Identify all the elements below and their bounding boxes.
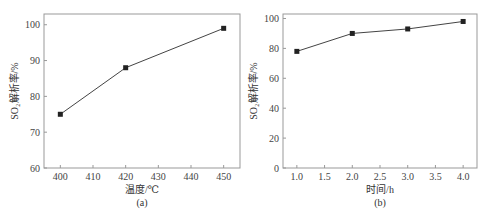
y-tick-label: 40 (269, 103, 279, 114)
plot-frame (283, 14, 477, 168)
data-point-marker (58, 112, 63, 117)
x-tick-label: 420 (118, 171, 133, 182)
plot-frame (44, 14, 240, 168)
y-axis-label: SO₂解析率/% (247, 62, 259, 119)
panel-label: (a) (136, 197, 147, 209)
series-line (60, 28, 223, 114)
y-axis-label: SO₂解析率/% (8, 62, 20, 119)
data-point-marker (294, 49, 299, 54)
y-tick-label: 100 (264, 13, 279, 24)
x-tick-label: 430 (151, 171, 166, 182)
panel-label: (b) (374, 197, 386, 209)
x-tick-label: 2.5 (374, 171, 387, 182)
x-axis-label: 温度/℃ (125, 183, 159, 195)
data-point-marker (405, 26, 410, 31)
x-axis-label: 时间/h (366, 183, 394, 195)
y-tick-label: 80 (269, 43, 279, 54)
chart-a: 60708090100400410420430440450温度/℃(a)SO₂解… (8, 14, 240, 209)
x-tick-label: 450 (216, 171, 231, 182)
x-tick-label: 410 (86, 171, 101, 182)
x-tick-label: 3.0 (401, 171, 414, 182)
y-tick-label: 60 (30, 163, 40, 174)
series-line (297, 21, 463, 51)
x-tick-label: 3.5 (429, 171, 442, 182)
data-point-marker (221, 26, 226, 31)
data-point-marker (461, 19, 466, 24)
x-tick-label: 400 (53, 171, 68, 182)
y-tick-label: 60 (269, 73, 279, 84)
chart-b: 0204060801001.01.52.02.53.03.54.0时间/h(b)… (247, 13, 477, 209)
x-tick-label: 2.0 (346, 171, 359, 182)
y-tick-label: 20 (269, 133, 279, 144)
x-tick-label: 4.0 (457, 171, 470, 182)
y-tick-label: 70 (30, 127, 40, 138)
y-tick-label: 90 (30, 55, 40, 66)
x-tick-label: 1.0 (291, 171, 304, 182)
x-tick-label: 1.5 (318, 171, 331, 182)
y-tick-label: 100 (25, 19, 40, 30)
y-tick-label: 0 (274, 163, 279, 174)
y-tick-label: 80 (30, 91, 40, 102)
data-point-marker (350, 31, 355, 36)
x-tick-label: 440 (184, 171, 199, 182)
data-point-marker (123, 65, 128, 70)
figure: 60708090100400410420430440450温度/℃(a)SO₂解… (0, 0, 485, 220)
